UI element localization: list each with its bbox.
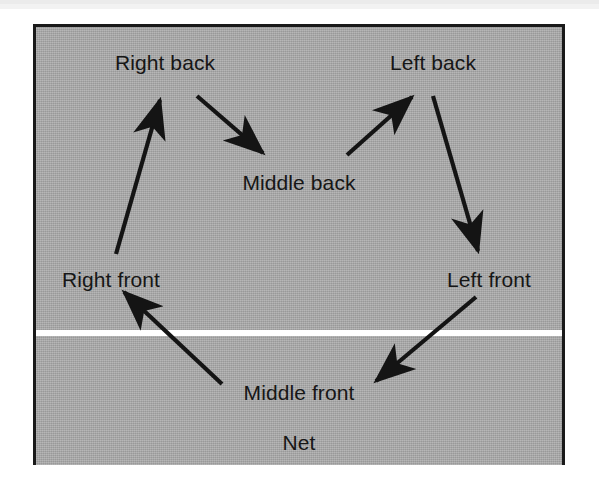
attack-line (36, 330, 562, 336)
volleyball-rotation-figure: Right back Left back Middle back Right f… (0, 0, 599, 489)
scan-artifact-strip-top (0, 0, 599, 4)
label-middle-front: Middle front (244, 382, 355, 403)
label-right-back: Right back (115, 52, 215, 73)
label-net: Net (283, 432, 316, 453)
label-left-back: Left back (390, 52, 476, 73)
label-right-front: Right front (62, 269, 160, 290)
label-middle-back: Middle back (242, 172, 355, 193)
label-left-front: Left front (447, 269, 531, 290)
